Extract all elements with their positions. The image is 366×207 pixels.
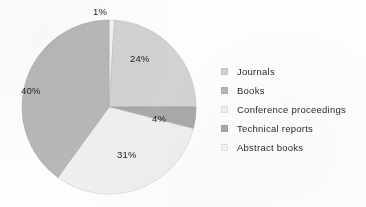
legend-label-abstract-books: Abstract books: [237, 142, 303, 153]
pie-label-books: 40%: [21, 85, 41, 96]
legend-label-conference-proceedings: Conference proceedings: [237, 104, 346, 115]
legend-item-technical-reports[interactable]: Technical reports: [221, 119, 366, 138]
legend-item-conference-proceedings[interactable]: Conference proceedings: [221, 100, 366, 119]
legend-swatch-technical-reports: [221, 125, 228, 132]
pie-label-journals: 24%: [130, 53, 150, 64]
legend-swatch-abstract-books: [221, 144, 228, 151]
legend-label-books: Books: [237, 85, 265, 96]
legend-swatch-journals: [221, 68, 228, 75]
legend-item-journals[interactable]: Journals: [221, 62, 366, 81]
legend-item-books[interactable]: Books: [221, 81, 366, 100]
pie-chart-figure: 1% 24% 4% 31% 40% Journals Books Confere…: [0, 0, 366, 207]
pie-label-conference-proceedings: 31%: [117, 149, 137, 160]
legend-label-journals: Journals: [237, 66, 275, 77]
legend-item-abstract-books[interactable]: Abstract books: [221, 138, 366, 157]
pie-slice-journals[interactable]: [109, 20, 196, 107]
legend-swatch-conference-proceedings: [221, 106, 228, 113]
pie-label-technical-reports: 4%: [152, 113, 166, 124]
pie-chart-svg: [0, 0, 216, 207]
legend-label-technical-reports: Technical reports: [237, 123, 313, 134]
pie-slices: [22, 20, 196, 194]
pie-label-abstract-books: 1%: [93, 6, 107, 17]
legend-swatch-books: [221, 87, 228, 94]
chart-legend: Journals Books Conference proceedings Te…: [221, 62, 366, 157]
pie-chart-plot-area: 1% 24% 4% 31% 40%: [0, 0, 216, 207]
